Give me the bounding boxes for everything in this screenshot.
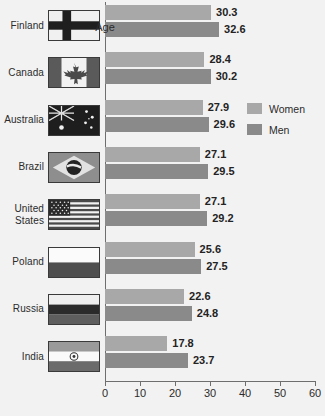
bar-value-label: 29.6 <box>214 117 235 132</box>
bar-value-label: 17.8 <box>172 336 193 351</box>
category-label: Russia <box>0 286 44 333</box>
legend-item-men[interactable]: Men <box>247 121 325 138</box>
bar-brazil-women <box>105 147 200 162</box>
bar-value-label: 22.6 <box>189 289 210 304</box>
bar-russia-women <box>105 289 184 304</box>
x-axis-tick-label: 50 <box>274 387 286 399</box>
legend-label: Men <box>269 124 289 136</box>
legend-label: Women <box>269 103 305 115</box>
bar-poland-women <box>105 242 195 257</box>
category-label-line: India <box>22 351 44 363</box>
x-axis-tick <box>175 381 176 386</box>
category-label: India <box>0 333 44 380</box>
bar-united-states-men <box>105 211 207 226</box>
bar-value-label: 27.5 <box>206 259 227 274</box>
bar-russia-men <box>105 306 192 321</box>
category-label-line: Canada <box>8 67 44 79</box>
category-label: Poland <box>0 239 44 286</box>
x-axis-tick <box>315 381 316 386</box>
chart-container: FinlandCanadaAustraliaBrazilUnitedStates… <box>0 0 325 416</box>
category-label-line: Australia <box>4 114 44 126</box>
flag-canada-icon <box>48 57 100 88</box>
category-label: Brazil <box>0 144 44 191</box>
bar-value-label: 27.9 <box>208 100 229 115</box>
category-label-line: States <box>15 215 44 227</box>
flag-russia-icon <box>48 294 100 325</box>
bar-finland-men <box>105 22 219 37</box>
legend-swatch-icon <box>247 103 262 114</box>
x-axis: 0102030405060 <box>105 381 319 416</box>
category-label: Finland <box>0 2 44 49</box>
bar-value-label: 29.5 <box>213 164 234 179</box>
bar-value-label: 32.6 <box>224 22 245 37</box>
category-label: UnitedStates <box>0 191 44 238</box>
x-axis-tick <box>245 381 246 386</box>
bar-value-label: 25.6 <box>200 242 221 257</box>
bar-value-label: 30.2 <box>216 69 237 84</box>
flag-poland-icon <box>48 247 100 278</box>
flag-india-icon <box>48 341 100 372</box>
x-axis-tick <box>210 381 211 386</box>
flag-brazil-icon <box>48 152 100 183</box>
category-label-line: Finland <box>11 20 45 32</box>
bar-value-label: 24.8 <box>197 306 218 321</box>
bar-value-label: 27.1 <box>205 194 226 209</box>
x-axis-tick <box>105 381 106 386</box>
category-label: Australia <box>0 97 44 144</box>
flag-finland-icon <box>48 10 100 41</box>
category-label-line: Brazil <box>18 161 44 173</box>
x-axis-title: Age <box>95 21 115 33</box>
x-axis-tick-label: 20 <box>169 387 181 399</box>
legend-item-women[interactable]: Women <box>247 100 325 117</box>
bar-australia-men <box>105 117 209 132</box>
bar-canada-men <box>105 69 211 84</box>
bar-value-label: 27.1 <box>205 147 226 162</box>
category-label-line: Russia <box>13 303 44 315</box>
bar-australia-women <box>105 100 203 115</box>
x-axis-tick-label: 60 <box>309 387 321 399</box>
category-label-line: United <box>14 203 44 215</box>
category-label: Canada <box>0 49 44 96</box>
x-axis-tick-label: 30 <box>204 387 216 399</box>
x-axis-tick-label: 0 <box>102 387 108 399</box>
bar-india-women <box>105 336 167 351</box>
bar-brazil-men <box>105 164 208 179</box>
x-axis-tick <box>140 381 141 386</box>
x-axis-tick <box>280 381 281 386</box>
bar-value-label: 29.2 <box>212 211 233 226</box>
flag-usa-icon <box>48 199 100 230</box>
legend: WomenMen <box>247 100 325 142</box>
bar-finland-women <box>105 5 211 20</box>
x-axis-tick-label: 10 <box>134 387 146 399</box>
x-axis-tick-label: 40 <box>239 387 251 399</box>
bar-united-states-women <box>105 194 200 209</box>
flag-australia-icon <box>48 105 100 136</box>
bar-poland-men <box>105 259 201 274</box>
bar-value-label: 28.4 <box>209 52 230 67</box>
legend-swatch-icon <box>247 124 262 135</box>
bar-india-men <box>105 353 188 368</box>
bar-canada-women <box>105 52 204 67</box>
category-label-line: Poland <box>12 256 44 268</box>
bar-value-label: 23.7 <box>193 353 214 368</box>
bar-value-label: 30.3 <box>216 5 237 20</box>
